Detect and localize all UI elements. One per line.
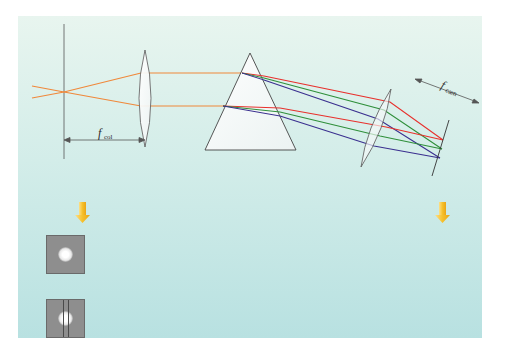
svg-text:f: f <box>98 126 103 140</box>
slit-edge-right <box>68 300 69 337</box>
spectral-image-plane <box>432 120 449 176</box>
collimator-lens <box>139 50 151 147</box>
focal-plane-image-c <box>46 299 85 338</box>
svg-text:col: col <box>104 133 113 141</box>
prism <box>205 53 296 150</box>
svg-text:cam: cam <box>444 86 458 98</box>
down-arrow-right <box>435 202 450 223</box>
star-spot <box>58 247 73 262</box>
focal-plane-image-b <box>46 235 85 274</box>
camera-lens <box>361 89 391 167</box>
diagram-panel: f col <box>18 16 482 338</box>
slit-edge-left <box>63 300 64 337</box>
optics-drawing: f col <box>18 16 482 338</box>
down-arrow-left <box>75 202 90 223</box>
star-spot-slit <box>58 311 73 326</box>
